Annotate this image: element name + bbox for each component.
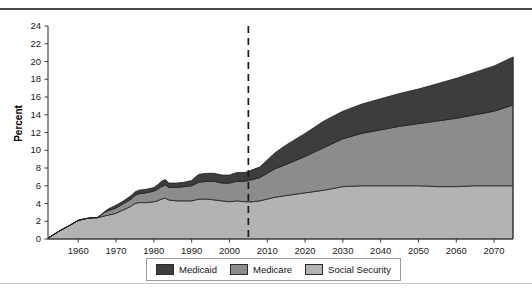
x-axis-tick-label: 2030	[326, 245, 360, 256]
x-axis-tick-label: 2020	[288, 245, 322, 256]
legend-swatch-social-security	[305, 264, 323, 275]
x-axis-tick-label: 2050	[401, 245, 435, 256]
legend-label-medicare: Medicare	[253, 264, 292, 275]
top-divider-rule	[0, 8, 532, 10]
y-axis-tick-label: 12	[19, 127, 41, 138]
y-axis-tick-label: 20	[19, 56, 41, 67]
legend-item-medicaid: Medicaid	[156, 264, 217, 275]
y-axis-tick-label: 16	[19, 91, 41, 102]
legend-label-social-security: Social Security	[328, 264, 391, 275]
x-axis-tick-label: 2010	[250, 245, 284, 256]
figure-root: Percent 024681012141618202224 1960197019…	[0, 0, 532, 293]
legend-item-social-security: Social Security	[305, 264, 391, 275]
y-axis-tick-label: 18	[19, 73, 41, 84]
chart-legend: Medicaid Medicare Social Security	[146, 258, 401, 281]
legend-item-medicare: Medicare	[230, 264, 292, 275]
y-axis-tick-label: 6	[19, 180, 41, 191]
y-axis-tick-label: 0	[19, 233, 41, 244]
y-axis-tick-label: 2	[19, 215, 41, 226]
legend-swatch-medicare	[230, 264, 248, 275]
x-axis-tick-label: 2060	[439, 245, 473, 256]
legend-label-medicaid: Medicaid	[179, 264, 217, 275]
stacked-area-chart	[0, 14, 532, 266]
bottom-divider-rule	[0, 283, 532, 284]
x-axis-tick-label: 1960	[61, 245, 95, 256]
y-axis-tick-label: 4	[19, 198, 41, 209]
y-axis-tick-label: 14	[19, 109, 41, 120]
chart-area: Percent 024681012141618202224 1960197019…	[0, 14, 532, 266]
x-axis-tick-label: 1980	[137, 245, 171, 256]
x-axis-tick-label: 1970	[99, 245, 133, 256]
y-axis-tick-label: 8	[19, 162, 41, 173]
x-axis-tick-label: 2040	[364, 245, 398, 256]
y-axis-tick-label: 22	[19, 38, 41, 49]
y-axis-tick-label: 24	[19, 20, 41, 31]
x-axis-tick-label: 2070	[477, 245, 511, 256]
x-axis-tick-label: 2000	[212, 245, 246, 256]
x-axis-tick-label: 1990	[175, 245, 209, 256]
y-axis-tick-label: 10	[19, 144, 41, 155]
legend-swatch-medicaid	[156, 264, 174, 275]
